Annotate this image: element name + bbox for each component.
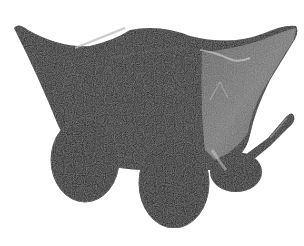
wagon-model-illustration (0, 0, 304, 246)
